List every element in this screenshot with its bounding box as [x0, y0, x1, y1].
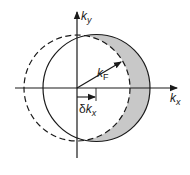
kf-label: kF	[97, 66, 109, 82]
kx-label: kx	[170, 91, 181, 107]
fermi-shift-diagram: ky kx kF δkx	[0, 0, 190, 175]
ky-label: ky	[81, 9, 92, 25]
delta-kx-label: δkx	[79, 102, 97, 118]
